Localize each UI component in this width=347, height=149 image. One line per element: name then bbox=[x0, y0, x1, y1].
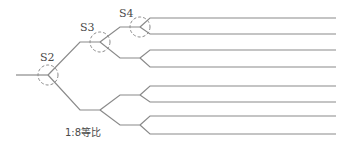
output-3 bbox=[140, 50, 336, 58]
wires bbox=[16, 18, 336, 134]
output-8 bbox=[140, 125, 336, 134]
output-6 bbox=[140, 95, 336, 102]
s2-label: S2 bbox=[40, 51, 55, 64]
lower-s3-upper-branch bbox=[100, 95, 140, 110]
ratio-caption: 1:8等比 bbox=[65, 126, 101, 138]
s2-upper-branch bbox=[48, 42, 100, 75]
output-2 bbox=[140, 27, 336, 34]
s2-lower-branch bbox=[48, 75, 100, 110]
output-4 bbox=[140, 58, 336, 67]
s3-label: S3 bbox=[80, 21, 95, 34]
lower-s3-lower-branch bbox=[100, 110, 140, 125]
s3-lower-branch bbox=[100, 42, 140, 58]
output-1 bbox=[140, 18, 336, 27]
output-5 bbox=[140, 86, 336, 95]
splitter-tree-diagram: S2 S3 S4 1:8等比 bbox=[0, 0, 347, 149]
s4-label: S4 bbox=[119, 7, 134, 20]
output-7 bbox=[140, 116, 336, 125]
